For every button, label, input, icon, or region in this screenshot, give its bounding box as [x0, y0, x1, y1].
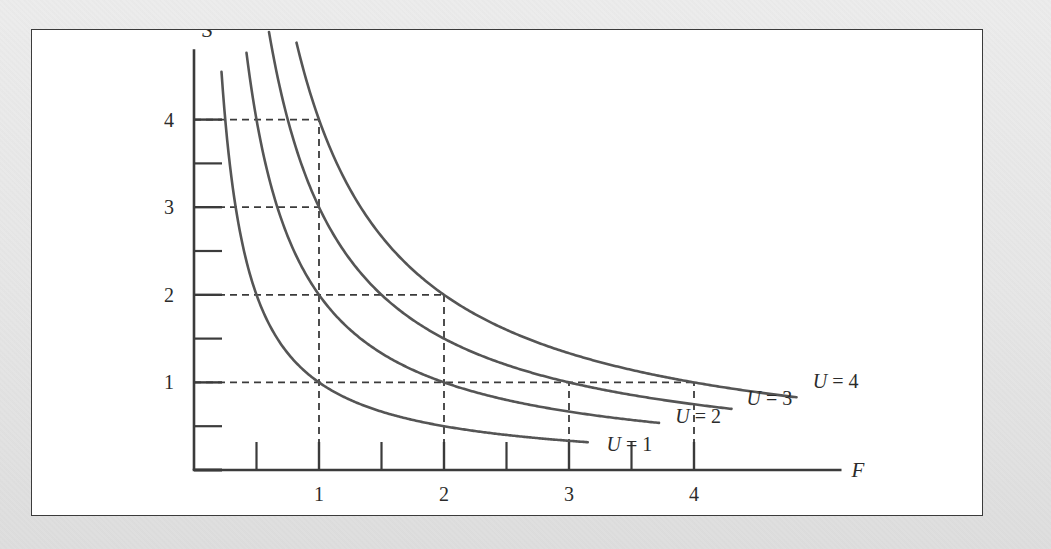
indifference-curve-3 — [269, 32, 732, 409]
indifference-curve-1 — [222, 72, 588, 442]
y-tick-label: 1 — [164, 371, 174, 393]
x-tick-label: 2 — [439, 483, 449, 505]
curves-group — [222, 32, 797, 442]
figure-frame: 12341234 U = 1U = 2U = 3U = 4 SF — [31, 29, 983, 516]
x-tick-label: 3 — [564, 483, 574, 505]
axis-letters-group: SF — [202, 30, 865, 482]
y-axis-label: S — [202, 30, 213, 42]
curve-label-1: U = 1 — [607, 433, 653, 455]
y-tick-label: 2 — [164, 284, 174, 306]
curve-label-3: U = 3 — [747, 387, 793, 409]
axes-group — [193, 49, 842, 470]
indifference-curve-chart: 12341234 U = 1U = 2U = 3U = 4 SF — [32, 30, 982, 515]
x-axis-label: F — [851, 458, 865, 482]
curve-label-4: U = 4 — [813, 370, 859, 392]
x-tick-label: 1 — [314, 483, 324, 505]
indifference-curve-2 — [247, 53, 660, 423]
figure-page: 12341234 U = 1U = 2U = 3U = 4 SF — [0, 0, 1051, 549]
x-tick-label: 4 — [689, 483, 699, 505]
y-tick-label: 4 — [164, 109, 174, 131]
indifference-curve-4 — [297, 43, 797, 398]
curve-label-2: U = 2 — [675, 405, 721, 427]
minor-ticks-group — [194, 163, 632, 470]
y-tick-label: 3 — [164, 196, 174, 218]
